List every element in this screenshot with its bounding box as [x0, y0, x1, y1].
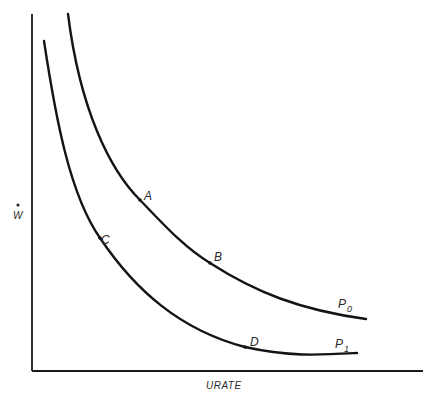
point-c-label: C: [101, 233, 110, 247]
curve-p0: [68, 14, 366, 319]
phillips-curve-diagram: A B C D P0 P1 W URATE: [0, 0, 433, 400]
curve-p0-label: P0: [338, 297, 352, 314]
point-a-marker: [138, 198, 142, 202]
x-axis-label: URATE: [206, 380, 242, 391]
y-axis-label-dot: [16, 203, 19, 206]
y-axis-label: W: [13, 210, 24, 221]
point-a-label: A: [143, 189, 152, 203]
point-d-marker: [243, 345, 247, 349]
curve-p1-label: P1: [335, 337, 349, 354]
point-b-label: B: [214, 250, 222, 264]
point-d-label: D: [250, 335, 259, 349]
point-b-marker: [208, 261, 212, 265]
